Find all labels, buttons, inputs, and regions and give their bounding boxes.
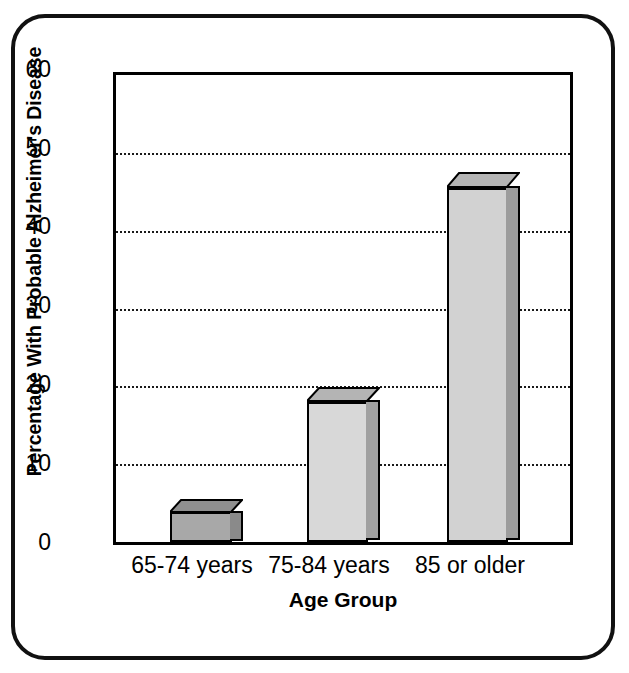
- bar-85-or-older[interactable]: [447, 172, 520, 542]
- bar-front-face-1: [170, 512, 232, 542]
- bar-side-face-3: [506, 186, 520, 540]
- plot-area: [113, 72, 573, 545]
- y-axis-title: Percentage With Probable Alzheimer's Dis…: [23, 32, 46, 492]
- bar-chart: Percentage With Probable Alzheimer's Dis…: [0, 0, 629, 673]
- y-tick-label-0: 0: [0, 531, 51, 554]
- y-tick-label-40: 40: [0, 215, 51, 238]
- y-tick-label-20: 20: [0, 373, 51, 396]
- x-tick-label-85-or-older: 85 or older: [400, 552, 540, 579]
- y-tick-label-30: 30: [0, 294, 51, 317]
- y-tick-label-50: 50: [0, 137, 51, 160]
- bar-side-face-1: [230, 511, 243, 541]
- y-tick-label-60: 60: [0, 58, 51, 81]
- bar-side-face-2: [366, 400, 380, 540]
- bar-75-84-years[interactable]: [307, 387, 380, 542]
- y-tick-label-10: 10: [0, 452, 51, 475]
- gridline-50: [116, 153, 570, 155]
- bar-65-74-years[interactable]: [170, 499, 243, 542]
- x-axis-title: Age Group: [113, 588, 573, 612]
- x-tick-label-65-74-years: 65-74 years: [122, 552, 262, 579]
- bar-front-face-2: [307, 402, 368, 542]
- x-tick-label-75-84-years: 75-84 years: [259, 552, 399, 579]
- bar-front-face-3: [447, 188, 508, 542]
